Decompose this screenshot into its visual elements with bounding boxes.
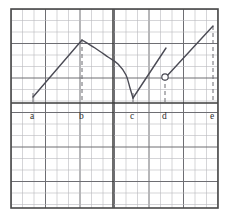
plot-canvas: abcde [0,0,230,218]
x-axis-label-b: b [79,111,84,121]
x-axis-label-e: e [210,111,214,121]
x-axis-label-c: c [130,111,134,121]
graph-figure: abcde [0,0,230,218]
x-axis-label-d: d [162,111,167,121]
open-circle-marker-d [162,74,168,80]
